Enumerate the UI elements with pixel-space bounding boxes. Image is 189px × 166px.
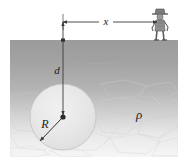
- label-depth: d: [54, 64, 60, 76]
- standing-person-figure: [152, 9, 168, 40]
- label-density: ρ: [135, 107, 142, 122]
- horizontal-distance-dimension-line: x: [63, 14, 157, 30]
- diagram-canvas: x d R ρ: [0, 0, 189, 166]
- label-radius: R: [40, 117, 49, 131]
- label-horizontal-distance: x: [103, 15, 109, 27]
- physics-diagram-figure: x d R ρ: [0, 0, 189, 166]
